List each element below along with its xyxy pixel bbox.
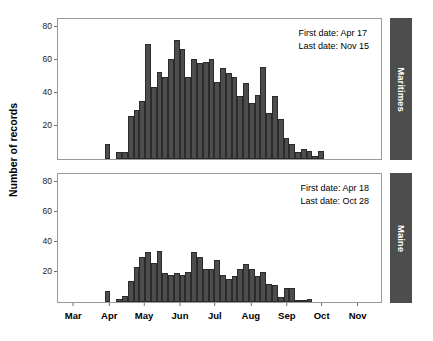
x-axis-tick-mark <box>250 303 251 306</box>
x-axis-tick-label: Mar <box>65 310 82 321</box>
x-axis-tick-mark <box>321 303 322 306</box>
first-date-maritimes: First date: Apr 17 <box>298 27 369 40</box>
chart-figure: Number of records First date: Apr 17 Las… <box>0 0 433 341</box>
x-axis-tick-label: Apr <box>101 310 117 321</box>
strip-text-maine: Maine <box>396 225 407 252</box>
plot-area-maritimes: First date: Apr 17 Last date: Nov 15 <box>57 18 382 160</box>
y-axis-title-text: Number of records <box>7 103 19 197</box>
x-axis-tick-mark <box>214 303 215 306</box>
y-axis-tick-label: 60 <box>43 206 57 216</box>
strip-label-maine: Maine <box>390 173 412 303</box>
x-axis-tick-label: Sep <box>278 310 295 321</box>
first-date-maine: First date: Apr 18 <box>300 182 369 195</box>
x-axis-tick-mark <box>357 303 358 306</box>
x-axis-tick-mark <box>286 303 287 306</box>
plot-area-maine: First date: Apr 18 Last date: Oct 28 <box>57 173 382 303</box>
x-axis-tick-mark <box>109 303 110 306</box>
bar <box>307 299 313 302</box>
x-axis-tick-mark <box>180 303 181 306</box>
annotation-maritimes: First date: Apr 17 Last date: Nov 15 <box>298 27 369 53</box>
x-axis-tick-label: Jul <box>208 310 222 321</box>
last-date-maine: Last date: Oct 28 <box>300 195 369 208</box>
x-axis-tick: Jul <box>208 303 222 321</box>
x-axis-tick-mark <box>73 303 74 306</box>
x-axis-tick-label: Nov <box>349 310 367 321</box>
x-axis-tick-label: May <box>135 310 153 321</box>
x-axis-tick-mark <box>144 303 145 306</box>
x-axis-tick: Apr <box>101 303 117 321</box>
x-axis-tick-label: Oct <box>314 310 330 321</box>
strip-text-maritimes: Maritimes <box>396 67 407 111</box>
bar <box>105 291 111 302</box>
last-date-maritimes: Last date: Nov 15 <box>298 40 369 53</box>
y-axis-tick-label: 40 <box>43 236 57 246</box>
y-axis-tick-label: 20 <box>43 266 57 276</box>
y-axis-tick-label: 60 <box>43 54 57 64</box>
panel-maritimes: First date: Apr 17 Last date: Nov 15 204… <box>57 18 382 160</box>
x-axis-tick-label: Jun <box>172 310 189 321</box>
x-axis-tick: Oct <box>314 303 330 321</box>
annotation-maine: First date: Apr 18 Last date: Oct 28 <box>300 182 369 208</box>
strip-label-maritimes: Maritimes <box>390 18 412 160</box>
y-axis-tick-label: 40 <box>43 87 57 97</box>
x-axis-tick-label: Aug <box>242 310 260 321</box>
x-axis-tick: Nov <box>349 303 367 321</box>
x-axis-tick: Sep <box>278 303 295 321</box>
y-axis-title: Number of records <box>2 0 24 300</box>
x-axis-tick: May <box>135 303 153 321</box>
x-axis: MarAprMayJunJulAugSepOctNov <box>57 303 382 333</box>
y-axis-tick-label: 80 <box>43 176 57 186</box>
x-axis-tick: Aug <box>242 303 260 321</box>
x-axis-tick: Jun <box>172 303 189 321</box>
y-axis-tick-label: 80 <box>43 21 57 31</box>
y-axis-tick-label: 20 <box>43 120 57 130</box>
bar <box>105 144 111 159</box>
panel-maine: First date: Apr 18 Last date: Oct 28 204… <box>57 173 382 303</box>
bar <box>318 151 324 159</box>
x-axis-tick: Mar <box>65 303 82 321</box>
